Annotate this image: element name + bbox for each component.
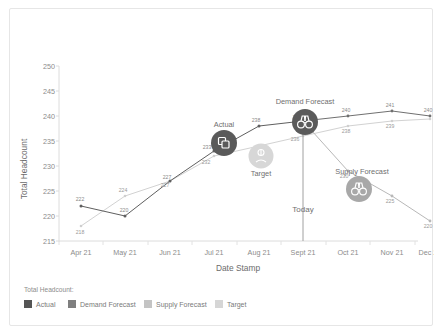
- data-label-supply-forecast: 225: [386, 198, 395, 204]
- y-tick-label: 245: [43, 87, 55, 96]
- today-label: Today: [292, 205, 313, 214]
- data-label-actual: 238: [252, 117, 261, 123]
- series-line-demand-forecast: [303, 111, 430, 121]
- data-label-target: 232: [202, 159, 211, 165]
- legend-item-demand-forecast[interactable]: Demand Forecast: [68, 300, 136, 308]
- legend-label-supply-forecast: Supply Forecast: [156, 301, 207, 309]
- annotation-label-actual: Actual: [214, 120, 235, 129]
- series-markers-demand-forecast: [347, 110, 432, 118]
- y-tick-label: 220: [43, 212, 55, 221]
- data-label-actual: 222: [76, 196, 85, 202]
- y-axis-ticks: 250 245 240 235 230 225 220 215: [43, 62, 59, 246]
- x-tick-label: Sept 21: [291, 248, 316, 257]
- y-tick-label: 240: [43, 112, 55, 121]
- data-label-target: 238: [342, 128, 351, 134]
- x-axis-title: Date Stamp: [216, 263, 261, 273]
- legend-item-supply-forecast[interactable]: Supply Forecast: [144, 300, 207, 309]
- annotation-label-demand-forecast: Demand Forecast: [276, 97, 335, 106]
- legend-swatch-supply-forecast: [144, 300, 152, 308]
- data-label-actual: 220: [120, 207, 129, 213]
- today-marker: [300, 119, 305, 241]
- x-tick-label: Jun 21: [159, 248, 181, 257]
- legend-title: Total Headcount:: [24, 286, 74, 293]
- chart-plot-area: Total Headcount 250 245 240 235 230 225 …: [10, 9, 434, 327]
- data-label-target: 236: [291, 136, 300, 142]
- data-label-demand-forecast: 240: [424, 107, 433, 113]
- chart-card: Total Headcount 250 245 240 235 230 225 …: [9, 8, 433, 326]
- data-label-target: 224: [119, 187, 128, 193]
- legend-swatch-actual: [24, 300, 32, 308]
- legend-label-target: Target: [227, 301, 247, 309]
- x-tick-label: May 21: [113, 248, 137, 257]
- legend-label-demand-forecast: Demand Forecast: [80, 301, 136, 308]
- data-label-target: 218: [76, 229, 85, 235]
- legend-item-target[interactable]: Target: [215, 300, 247, 309]
- data-label-target: 227: [161, 182, 170, 188]
- data-label-supply-forecast: 220: [424, 223, 433, 229]
- x-axis-tick-labels: Apr 21 May 21 Jun 21 Jul 21 Aug 21 Sept …: [70, 248, 434, 257]
- x-tick-label: Aug 21: [248, 248, 271, 257]
- annotation-label-supply-forecast: Supply Forecast: [335, 167, 388, 176]
- legend-item-actual[interactable]: Actual: [24, 300, 56, 308]
- x-tick-label: Jul 21: [204, 248, 223, 257]
- annotation-target[interactable]: Target: [249, 144, 274, 179]
- y-tick-label: 250: [43, 62, 55, 71]
- headcount-line-chart[interactable]: Total Headcount 250 245 240 235 230 225 …: [10, 9, 434, 327]
- data-label-demand-forecast: 241: [386, 102, 395, 108]
- data-label-actual: 233: [203, 144, 212, 150]
- y-tick-label: 230: [43, 162, 55, 171]
- data-label-actual: 227: [163, 174, 172, 180]
- x-tick-label: Apr 21: [70, 248, 91, 257]
- legend-swatch-demand-forecast: [68, 300, 76, 308]
- annotation-demand-forecast[interactable]: Demand Forecast: [276, 97, 335, 135]
- data-label-demand-forecast: 240: [342, 107, 351, 113]
- y-tick-label: 225: [43, 187, 55, 196]
- annotation-supply-forecast[interactable]: Supply Forecast: [335, 167, 388, 202]
- legend-swatch-target: [215, 300, 223, 308]
- x-tick-label: Oct 21: [337, 248, 358, 257]
- data-label-target: 239: [386, 123, 395, 129]
- x-tick-label: Dec 21: [419, 248, 434, 257]
- annotation-label-target: Target: [251, 169, 272, 178]
- y-tick-label: 215: [43, 237, 55, 246]
- y-tick-label: 235: [43, 137, 55, 146]
- y-axis-title: Total Headcount: [19, 138, 29, 199]
- annotation-actual[interactable]: Actual: [211, 120, 237, 156]
- x-tick-label: Nov 21: [381, 248, 404, 257]
- x-axis-ticks: [59, 241, 415, 245]
- legend-label-actual: Actual: [36, 301, 56, 308]
